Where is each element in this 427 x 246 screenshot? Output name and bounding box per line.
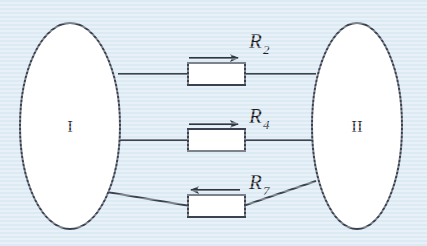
resistor-label-r2: R 2 xyxy=(248,29,270,57)
resistor-label-r2-letter: R xyxy=(248,29,262,53)
resistor-box-r7[interactable] xyxy=(188,195,245,217)
resistor-label-r2-subscript: 2 xyxy=(263,42,270,57)
node-label-ii: II xyxy=(351,117,363,136)
resistor-label-r7-subscript: 7 xyxy=(263,183,270,198)
resistor-label-r4-subscript: 4 xyxy=(263,117,270,132)
resistor-box-r2[interactable] xyxy=(188,63,245,85)
resistor-labels: R 2 R 4 R 7 xyxy=(248,29,270,198)
resistor-boxes xyxy=(188,63,245,217)
circuit-diagram-figure: I II R 2 R 4 R 7 xyxy=(0,0,427,246)
wire-branch-r7-left xyxy=(107,192,190,206)
resistor-label-r4: R 4 xyxy=(248,104,270,132)
node-label-i: I xyxy=(67,117,73,136)
resistor-label-r7: R 7 xyxy=(248,170,270,198)
resistor-box-r4[interactable] xyxy=(188,129,245,151)
resistor-label-r7-letter: R xyxy=(248,170,262,194)
diagram-canvas: I II R 2 R 4 R 7 xyxy=(0,0,427,246)
resistor-label-r4-letter: R xyxy=(248,104,262,128)
